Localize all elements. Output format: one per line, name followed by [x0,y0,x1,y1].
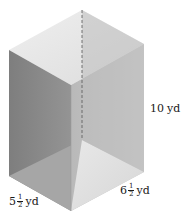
width-unit: yd [136,185,149,196]
depth-unit: yd [25,196,38,207]
width-label: 6 1 2 yd [120,183,150,198]
height-unit: yd [167,103,180,114]
width-fraction: 1 2 [128,183,134,198]
depth-label: 5 1 2 yd [9,194,39,209]
depth-fraction: 1 2 [17,194,23,209]
width-whole: 6 [120,185,127,196]
height-value: 10 [150,103,164,114]
height-label: 10 yd [150,103,180,114]
depth-whole: 5 [9,196,16,207]
